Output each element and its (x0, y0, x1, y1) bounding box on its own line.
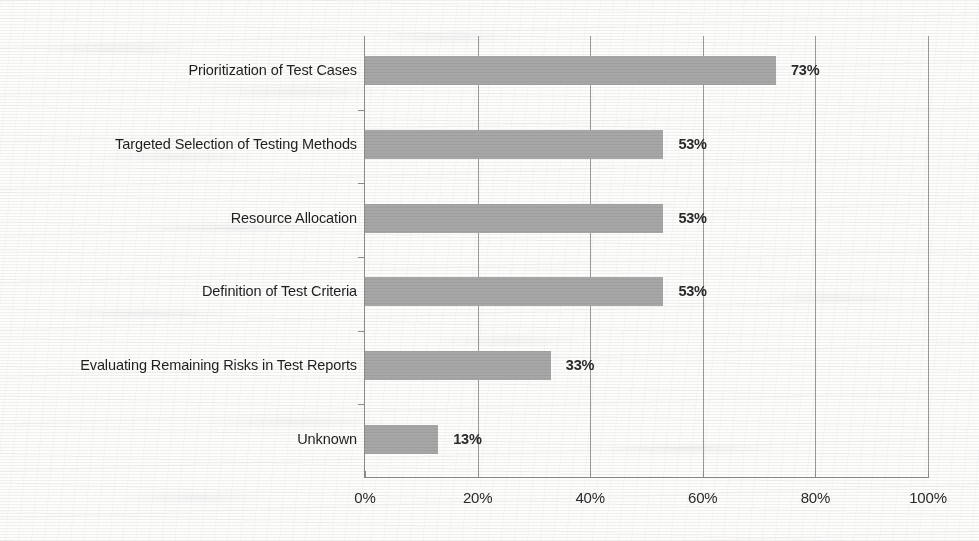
bar (365, 56, 776, 85)
y-tick (358, 183, 365, 184)
x-tick-label: 40% (575, 489, 604, 506)
category-label: Targeted Selection of Testing Methods (115, 136, 357, 152)
bar-value-label: 73% (791, 62, 819, 78)
bar (365, 425, 438, 454)
gridline-80 (815, 36, 816, 478)
x-tick-label: 100% (909, 489, 947, 506)
x-tick-100 (928, 471, 929, 478)
bar-value-label: 33% (566, 357, 594, 373)
x-tick-label: 20% (463, 489, 492, 506)
gridline-100 (928, 36, 929, 478)
x-tick-label: 0% (354, 489, 375, 506)
x-tick-0 (365, 471, 366, 478)
category-label: Evaluating Remaining Risks in Test Repor… (80, 357, 357, 373)
bar-value-label: 53% (678, 136, 706, 152)
bar (365, 130, 663, 159)
bar (365, 204, 663, 233)
y-tick (358, 331, 365, 332)
category-label: Unknown (297, 431, 357, 447)
x-tick-label: 80% (801, 489, 830, 506)
gridline-60 (703, 36, 704, 478)
y-tick (358, 404, 365, 405)
bar (365, 277, 663, 306)
bar-value-label: 53% (678, 283, 706, 299)
x-tick-20 (478, 471, 479, 478)
x-tick-60 (703, 471, 704, 478)
gridline-40 (590, 36, 591, 478)
x-tick-40 (590, 471, 591, 478)
category-label: Resource Allocation (231, 210, 357, 226)
category-label: Definition of Test Criteria (202, 283, 357, 299)
horizontal-bar-chart: 73%53%53%53%33%13% Prioritization of Tes… (0, 0, 979, 541)
bar-value-label: 53% (678, 210, 706, 226)
bar-value-label: 13% (453, 431, 481, 447)
x-tick-label: 60% (688, 489, 717, 506)
scanned-page: 73%53%53%53%33%13% Prioritization of Tes… (0, 0, 979, 541)
category-label: Prioritization of Test Cases (188, 62, 357, 78)
x-tick-80 (815, 471, 816, 478)
bar (365, 351, 551, 380)
gridlines (365, 36, 928, 478)
y-tick (358, 110, 365, 111)
gridline-20 (478, 36, 479, 478)
y-tick (358, 257, 365, 258)
x-axis-line (365, 477, 929, 478)
